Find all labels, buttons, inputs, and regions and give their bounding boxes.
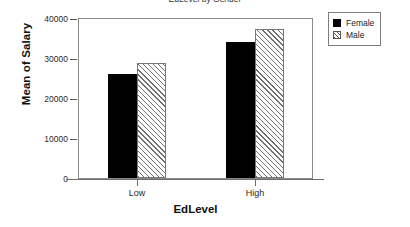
y-tick-label: 10000 (22, 134, 68, 144)
legend-swatch-male-icon (333, 31, 341, 39)
x-tick-label-high: High (220, 188, 290, 198)
y-tick-mark (70, 19, 77, 20)
y-tick-label: 30000 (22, 54, 68, 64)
plot-area (78, 18, 313, 179)
x-tick-mark (137, 180, 138, 186)
y-tick-label: 40000 (22, 14, 68, 24)
legend-item-male[interactable]: Male (333, 29, 374, 41)
x-axis-line (66, 179, 324, 180)
y-tick-mark (70, 59, 77, 60)
legend: Female Male (328, 12, 381, 46)
legend-item-female[interactable]: Female (333, 17, 374, 29)
x-tick-label-low: Low (102, 188, 172, 198)
bar-high-female (226, 42, 255, 178)
legend-label-male: Male (346, 30, 364, 40)
chart-screenshot: EdLevel by Gender Mean of Salary 0 10000… (0, 0, 410, 227)
y-tick-mark (70, 99, 77, 100)
y-tick-label: 0 (22, 174, 68, 184)
y-tick-label: 20000 (22, 94, 68, 104)
bar-low-female (108, 74, 137, 178)
y-tick-mark (70, 139, 77, 140)
y-axis-tick-labels: 0 10000 20000 30000 40000 (18, 0, 68, 227)
x-tick-mark (255, 180, 256, 186)
legend-swatch-female-icon (333, 19, 341, 27)
x-axis-title: EdLevel (78, 203, 313, 215)
bar-high-male (255, 29, 284, 179)
bar-low-male (137, 63, 166, 178)
plot-bars-layer (79, 19, 312, 178)
legend-label-female: Female (346, 18, 374, 28)
